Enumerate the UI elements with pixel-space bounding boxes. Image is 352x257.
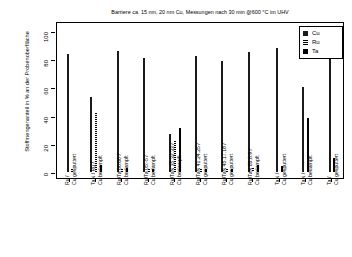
chart-title: Barriere ca. 15 nm, 20 nm Cu, Messungen … [60,9,340,16]
x-category-label-line2: Cu bedampft [307,117,313,185]
x-category-label-line2: Cu bedampft [176,117,182,185]
y-tick-mark [51,117,55,118]
x-category-label-line2: Cu gesputtert [333,117,339,185]
legend-item-cu[interactable]: Cu [303,29,339,38]
x-category-label-line2: Cu bedampft [123,117,129,185]
y-tick-mark [51,173,55,174]
x-category-label-line2: Cu gesputtert [202,117,208,185]
x-category-label-line2: Cu bedampft [97,117,103,185]
x-category-label-line1: TaN / [300,117,306,185]
y-axis-title: Stoffmengenanteil in % an der Probenober… [24,2,31,182]
legend-item-ta[interactable]: Ta [303,47,339,56]
legend-swatch-ta-icon [303,49,308,54]
x-category-label-line1: Ru/TaN 41.24.25 / [195,117,201,185]
x-category-label-line2: Cu gesputtert [228,117,234,185]
x-category-label-line1: Ru/TaN 35.32.33 / [169,117,175,185]
y-tick-mark [51,60,55,61]
x-category-label-line2: Cu gesputtert [281,117,287,185]
x-category-label-line2: Cu gesputtert [71,117,77,185]
x-category-label-line1: Ru / [64,117,70,185]
legend-swatch-cu-icon [303,31,308,36]
x-category-label-line1: Ru/TaN 45.17.18 / [221,117,227,185]
y-tick-label: 100 [43,32,49,78]
y-tick-mark [51,32,55,33]
x-category-label-line1: Ta / [326,117,332,185]
y-tick-mark [51,88,55,89]
chart-legend: CuRuTa [299,26,343,59]
x-category-label-line1: TaN / [274,117,280,185]
x-category-label-line1: TaN / Ru / [90,117,96,185]
legend-label: Ru [312,39,320,46]
legend-label: Ta [312,48,318,55]
legend-item-ru[interactable]: Ru [303,38,339,47]
x-category-label-line1: Ru/Ta 60:60 / [116,117,122,185]
legend-label: Cu [312,30,320,37]
y-tick-mark [51,145,55,146]
x-category-label-line2: Cu bedampft [150,117,156,185]
x-category-label: Ta /Cu gesputtert [322,185,352,195]
x-category-label-line2: Cu bedampft [254,117,260,185]
chart-figure: Barriere ca. 15 nm, 20 nm Cu, Messungen … [0,0,352,257]
legend-swatch-ru-icon [303,40,308,45]
x-category-label-line1: Ru/Ta 05:-5 / [143,117,149,185]
x-category-label-line1: Ru/TaN 83.8.9 / [247,117,253,185]
